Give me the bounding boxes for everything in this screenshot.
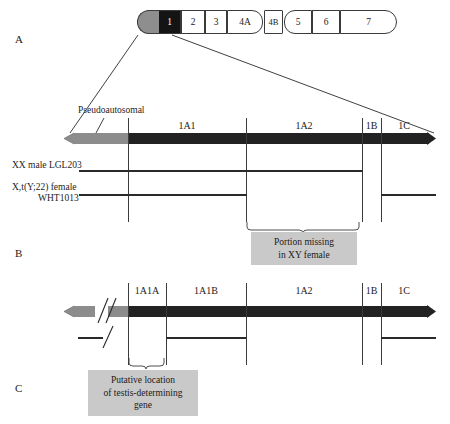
figure-canvas: A 1 2 3 4A 4B 5 6 7 B Pseudoautosomal 1A… (0, 0, 450, 424)
callout-testis-line1: Putative location (94, 374, 192, 387)
callout-testis-determining-gene: Putative location of testis-determining … (88, 370, 198, 416)
testis-gene-brace (0, 0, 450, 424)
callout-testis-line3: gene (94, 399, 192, 412)
callout-testis-line2: of testis-determining (94, 387, 192, 400)
